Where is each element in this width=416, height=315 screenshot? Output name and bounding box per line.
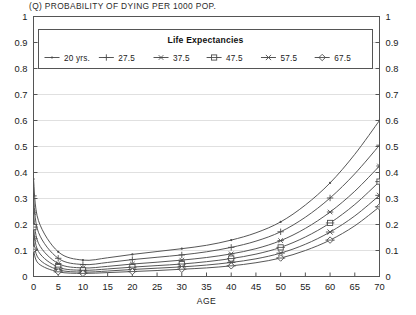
legend-label: 20 yrs.: [64, 54, 90, 63]
series-37-5: [30, 164, 382, 271]
y-tick-label-right: 0: [386, 272, 391, 282]
x-tick-label: 15: [102, 282, 112, 292]
x-tick-label: 5: [56, 282, 61, 292]
x-tick-label: 0: [31, 282, 36, 292]
marker-dot: [280, 221, 282, 223]
x-tick-label: 70: [374, 282, 384, 292]
y-tick-label-left: 0.5: [15, 142, 28, 152]
marker-dot: [82, 259, 84, 261]
y-tick-label-right: 1: [386, 12, 391, 22]
legend-label: 47.5: [226, 54, 243, 63]
y-tick-label-left: 0.4: [15, 168, 28, 178]
marker-dot: [131, 253, 133, 255]
marker-dot: [378, 119, 380, 121]
y-tick-label-right: 0.4: [386, 168, 399, 178]
y-tick-label-right: 0.2: [386, 220, 399, 230]
chart-screenshot: (Q) PROBABILITY OF DYING PER 1000 POP. 0…: [0, 0, 416, 315]
y-tick-label-left: 1: [22, 12, 27, 22]
y-tick-label-right: 0.6: [386, 116, 399, 126]
x-tick-label: 35: [201, 282, 211, 292]
marker-dot: [329, 182, 331, 184]
x-tick-label: 65: [350, 282, 360, 292]
x-axis-title: AGE: [197, 296, 216, 306]
x-tick-label: 30: [177, 282, 187, 292]
x-tick-label: 45: [251, 282, 261, 292]
y-tick-label-left: 0.7: [15, 90, 28, 100]
series-67-5: [29, 204, 384, 277]
x-tick-label: 55: [300, 282, 310, 292]
x-tick-label: 40: [226, 282, 236, 292]
y-tick-label-right: 0.7: [386, 90, 399, 100]
y-tick-label-right: 0.1: [386, 246, 399, 256]
series-line: [34, 166, 380, 268]
marker-dot: [57, 251, 59, 253]
y-tick-label-left: 0: [22, 272, 27, 282]
marker-dot: [230, 239, 232, 241]
y-tick-label-left: 0.9: [15, 38, 28, 48]
legend-label: 57.5: [280, 54, 297, 63]
series-57-5: [29, 193, 383, 275]
marker-dot: [181, 248, 183, 250]
y-tick-label-left: 0.8: [15, 64, 28, 74]
legend-label: 67.5: [334, 54, 351, 63]
x-tick-label: 60: [325, 282, 335, 292]
series-47-5: [29, 179, 383, 273]
y-tick-label-right: 0.9: [386, 38, 399, 48]
plot-area-wrapper: 00.10.20.30.40.50.60.70.80.9100.10.20.30…: [0, 0, 416, 315]
y-tick-label-left: 0.6: [15, 116, 28, 126]
series-line: [34, 145, 380, 264]
line-chart: 00.10.20.30.40.50.60.70.80.9100.10.20.30…: [0, 0, 416, 315]
x-tick-label: 50: [275, 282, 285, 292]
x-tick-label: 10: [78, 282, 88, 292]
y-tick-label-right: 0.8: [386, 64, 399, 74]
marker-dot: [51, 56, 53, 58]
y-tick-label-right: 0.5: [386, 142, 399, 152]
y-tick-label-right: 0.3: [386, 194, 399, 204]
legend-label: 27.5: [118, 54, 135, 63]
x-tick-label: 20: [127, 282, 137, 292]
legend-title: Life Expectancies: [167, 35, 243, 45]
legend-label: 37.5: [173, 54, 190, 63]
y-tick-label-left: 0.2: [15, 220, 28, 230]
x-tick-label: 25: [152, 282, 162, 292]
y-tick-label-left: 0.1: [15, 246, 28, 256]
marker-dot: [32, 178, 34, 180]
series-27-5: [30, 142, 382, 268]
y-tick-label-left: 0.3: [15, 194, 28, 204]
